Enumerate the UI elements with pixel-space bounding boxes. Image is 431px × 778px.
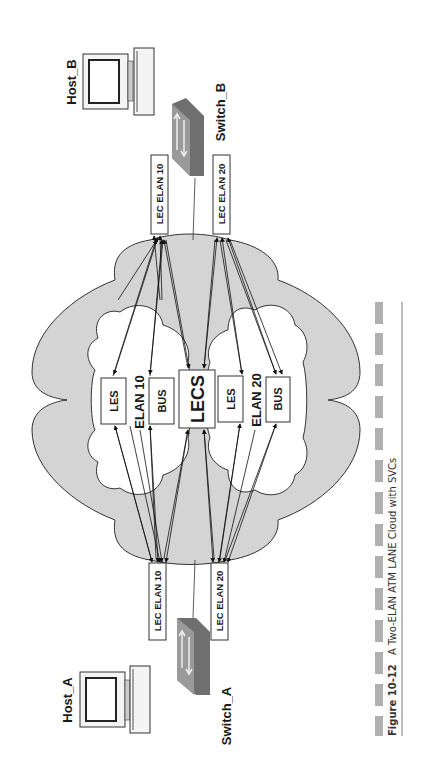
svg-text:LEC ELAN 10: LEC ELAN 10 xyxy=(152,571,163,632)
switch-b-label: Switch_B xyxy=(213,83,228,142)
svg-text:LECS: LECS xyxy=(188,375,208,423)
svg-text:BUS: BUS xyxy=(156,389,168,412)
lecs-server: LECS xyxy=(179,370,215,428)
svg-text:LEC ELAN 20: LEC ELAN 20 xyxy=(216,164,227,225)
switch-b xyxy=(172,98,204,176)
elan20-bus: BUS xyxy=(266,377,290,422)
lec-a-elan20: LEC ELAN 20 xyxy=(211,563,228,640)
host-a-label: Host_A xyxy=(60,677,75,723)
host-b-computer xyxy=(83,48,154,115)
lec-b-elan10: LEC ELAN 10 xyxy=(151,155,168,234)
elan10-label: ELAN 10 xyxy=(132,375,147,428)
svg-text:LES: LES xyxy=(108,390,120,411)
elan20-les: LES xyxy=(218,376,243,422)
figure-number: Figure 10-12 xyxy=(387,664,398,736)
svg-text:LEC ELAN 20: LEC ELAN 20 xyxy=(214,571,225,632)
elan10-les: LES xyxy=(101,378,126,424)
svg-text:LEC ELAN 10: LEC ELAN 10 xyxy=(154,164,165,225)
caption-dash-bar xyxy=(375,302,383,736)
lec-a-elan10: LEC ELAN 10 xyxy=(149,563,166,640)
switch-b-link xyxy=(193,178,195,240)
switch-a-link xyxy=(193,560,195,618)
switch-a-label: Switch_A xyxy=(219,686,234,745)
host-a-computer xyxy=(80,666,150,733)
lec-b-elan20: LEC ELAN 20 xyxy=(213,155,230,234)
switch-a xyxy=(177,618,210,695)
figure-caption: A Two-ELAN ATM LANE Cloud with SVCs xyxy=(387,458,398,655)
svg-text:LES: LES xyxy=(225,388,237,409)
elan10-bus: BUS xyxy=(149,378,174,424)
elan20-label: ELAN 20 xyxy=(249,373,264,426)
host-b-label: Host_B xyxy=(64,59,79,105)
lane-diagram: LES ELAN 10 BUS LECS LES ELAN 20 BUS LEC… xyxy=(0,0,431,778)
svg-text:BUS: BUS xyxy=(272,387,284,410)
